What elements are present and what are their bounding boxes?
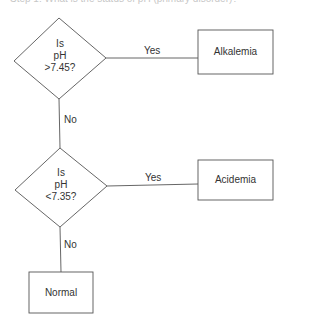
edge-no-ph-low xyxy=(59,99,60,148)
decision-line: Is xyxy=(40,167,82,179)
decision-line: pH xyxy=(39,50,81,62)
outcome-label-alkalemia: Alkalemia xyxy=(198,46,273,57)
decision-text-ph-high: Is pH >7.45? xyxy=(39,38,81,74)
outcome-label-normal: Normal xyxy=(29,287,93,298)
decision-text-ph-low: Is pH <7.35? xyxy=(40,167,82,203)
outcome-label-acidemia: Acidemia xyxy=(198,174,273,185)
edge-yes-acidemia xyxy=(107,184,198,186)
decision-line: >7.45? xyxy=(39,62,81,74)
decision-line: pH xyxy=(40,179,82,191)
edge-no-normal xyxy=(60,227,61,272)
edge-label-yes-2: Yes xyxy=(145,172,161,184)
decision-line: <7.35? xyxy=(40,191,82,203)
edge-label-no-2: No xyxy=(64,239,77,251)
edge-label-no-1: No xyxy=(64,114,77,126)
decision-line: Is xyxy=(39,38,81,50)
edge-label-yes-1: Yes xyxy=(144,45,160,57)
